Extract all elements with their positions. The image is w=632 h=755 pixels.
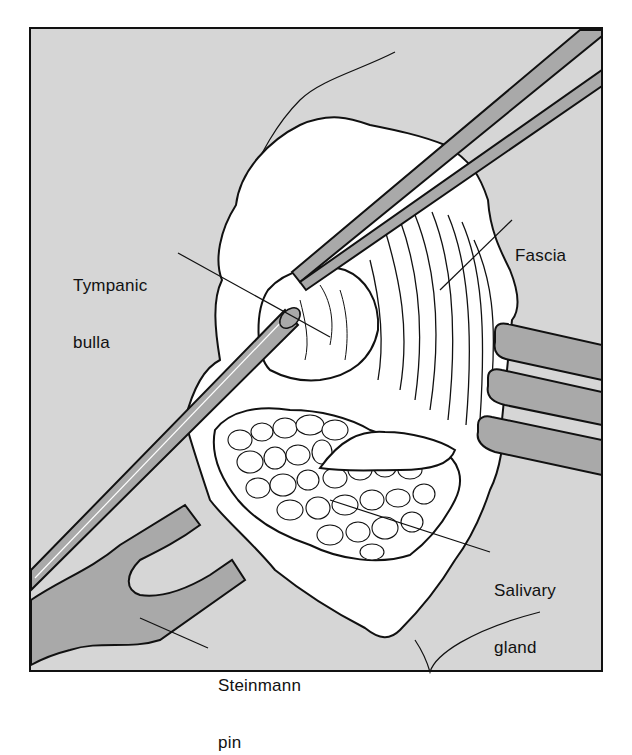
label-salivary-gland: Salivary gland xyxy=(494,543,556,676)
label-tympanic-line1: Tympanic xyxy=(73,276,147,295)
label-fascia-line1: Fascia xyxy=(515,246,566,265)
label-salivary-line1: Salivary xyxy=(494,581,556,600)
retractor xyxy=(478,323,602,475)
label-bulla-line2: bulla xyxy=(73,333,147,352)
label-steinmann-line1: Steinmann xyxy=(218,676,301,695)
label-pin-line2: pin xyxy=(218,733,301,752)
label-fascia: Fascia xyxy=(515,208,566,284)
label-steinmann-pin: Steinmann pin xyxy=(218,638,301,755)
label-gland-line2: gland xyxy=(494,638,556,657)
label-tympanic-bulla: Tympanic bulla xyxy=(73,238,147,371)
